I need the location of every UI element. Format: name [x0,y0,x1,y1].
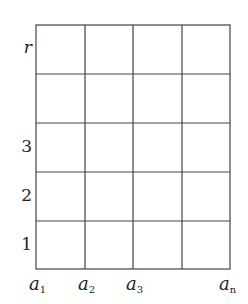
col-label-a2: a2 [78,273,95,295]
col-label-base: a [78,273,89,294]
col-label-base: a [126,273,137,294]
row-label-1: 1 [18,234,32,254]
col-label-an: an [219,273,236,295]
row-label-3: 3 [18,136,32,156]
col-label-a3: a3 [126,273,143,295]
col-label-sub: n [230,284,236,295]
col-label-a1: a1 [29,273,46,295]
col-label-base: a [219,273,230,294]
grid-diagram: r 3 2 1 a1 a2 a3 an [0,0,248,304]
col-label-base: a [29,273,40,294]
row-label-r: r [18,37,32,57]
col-label-sub: 3 [137,284,143,295]
col-label-sub: 1 [40,284,46,295]
row-label-2: 2 [18,185,32,205]
col-label-sub: 2 [89,284,95,295]
grid-lines [0,0,248,304]
